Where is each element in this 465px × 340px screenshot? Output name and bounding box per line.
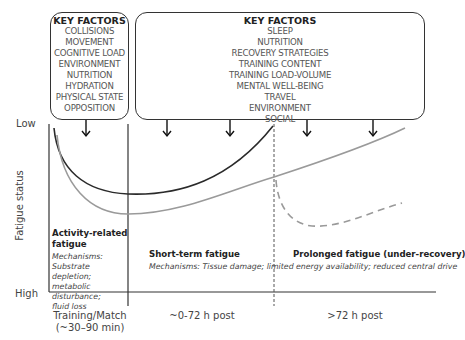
- x-tick-prolonged: >72 h post: [300, 310, 410, 322]
- x-tick-short-term: ~0-72 h post: [140, 310, 264, 322]
- arrow-icons: [82, 120, 377, 136]
- down-arrow-icon: [163, 120, 171, 136]
- down-arrow-icon: [82, 120, 90, 136]
- activity-phase-label: Activity-related fatigue Mechanisms: Sub…: [52, 228, 128, 312]
- prolonged-phase-title: Prolonged fatigue (under-recovery): [293, 249, 465, 260]
- prolonged-fatigue-curve: [276, 180, 402, 226]
- y-axis-top-label: Low: [16, 118, 36, 129]
- x-tick-training-match: Training/Match (~30–90 min): [48, 310, 132, 334]
- y-axis-bottom-label: High: [15, 288, 38, 299]
- grey-fatigue-curve: [57, 128, 405, 214]
- short-term-mechanisms: Mechanisms: Tissue damage; limited energ…: [149, 262, 457, 272]
- y-axis-title: Fatigue status: [14, 170, 25, 240]
- down-arrow-icon: [369, 120, 377, 136]
- down-arrow-icon: [226, 120, 234, 136]
- short-term-phase-title: Short-term fatigue: [149, 249, 240, 260]
- dark-fatigue-curve: [54, 126, 273, 194]
- down-arrow-icon: [303, 120, 311, 136]
